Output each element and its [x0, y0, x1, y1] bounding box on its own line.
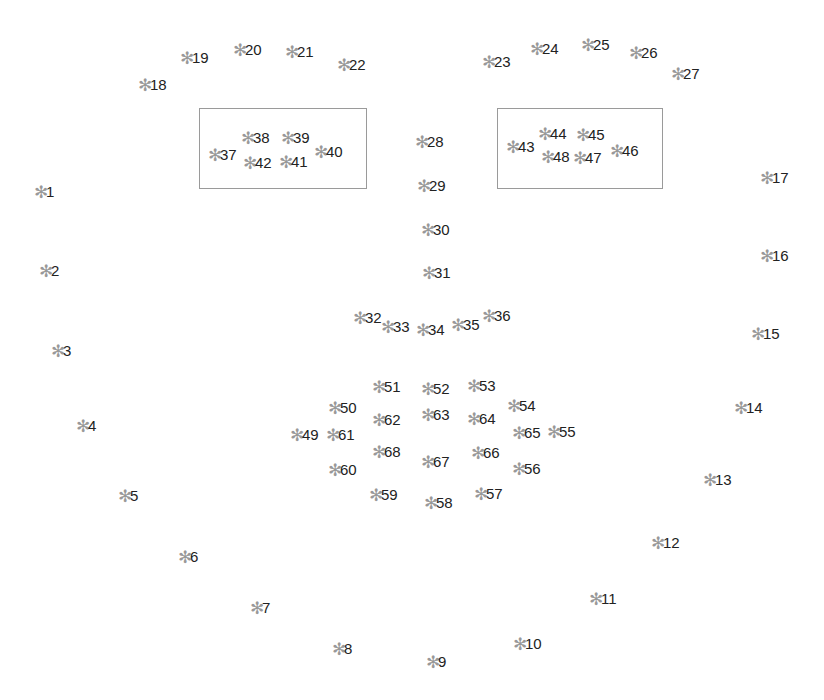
- landmark-label: 48: [553, 148, 570, 166]
- landmark-label: 17: [772, 169, 789, 187]
- landmark-label: 22: [349, 56, 366, 74]
- landmark-label: 30: [433, 221, 450, 239]
- landmark-label: 12: [663, 534, 680, 552]
- landmark-label: 38: [253, 129, 270, 147]
- landmark-label: 56: [524, 460, 541, 478]
- landmark-label: 54: [519, 397, 536, 415]
- landmark-label: 47: [585, 149, 602, 167]
- landmark-label: 63: [433, 406, 450, 424]
- landmark-label: 51: [384, 378, 401, 396]
- landmark-label: 68: [384, 443, 401, 461]
- landmark-label: 41: [291, 153, 308, 171]
- landmark-label: 65: [524, 424, 541, 442]
- landmark-label: 37: [220, 146, 237, 164]
- landmark-label: 52: [433, 380, 450, 398]
- landmark-label: 58: [436, 494, 453, 512]
- landmark-label: 23: [494, 53, 511, 71]
- landmark-label: 28: [427, 133, 444, 151]
- landmark-label: 34: [428, 321, 445, 339]
- landmark-label: 9: [438, 653, 446, 671]
- landmark-label: 4: [88, 417, 96, 435]
- landmark-label: 20: [245, 41, 262, 59]
- landmark-label: 49: [302, 426, 319, 444]
- landmark-label: 55: [559, 423, 576, 441]
- landmark-label: 2: [51, 262, 59, 280]
- landmark-label: 36: [494, 307, 511, 325]
- landmark-label: 53: [479, 377, 496, 395]
- landmark-label: 62: [384, 411, 401, 429]
- landmark-label: 21: [297, 43, 314, 61]
- landmark-label: 31: [434, 264, 451, 282]
- landmark-label: 3: [63, 342, 71, 360]
- landmark-label: 43: [518, 138, 535, 156]
- landmark-label: 40: [326, 143, 343, 161]
- landmark-label: 64: [479, 410, 496, 428]
- landmark-label: 18: [150, 76, 167, 94]
- landmark-label: 50: [340, 399, 357, 417]
- landmark-label: 33: [393, 318, 410, 336]
- facial-landmark-diagram: ✻1✻2✻3✻4✻5✻6✻7✻8✻9✻10✻11✻12✻13✻14✻15✻16✻…: [0, 0, 824, 700]
- landmark-label: 6: [190, 548, 198, 566]
- landmark-label: 60: [340, 461, 357, 479]
- landmark-label: 46: [622, 142, 639, 160]
- landmark-label: 66: [483, 444, 500, 462]
- landmark-label: 13: [715, 471, 732, 489]
- landmark-label: 10: [525, 635, 542, 653]
- landmark-label: 7: [262, 599, 270, 617]
- landmark-label: 26: [641, 44, 658, 62]
- landmark-label: 39: [293, 129, 310, 147]
- landmark-label: 59: [381, 486, 398, 504]
- landmark-label: 67: [433, 453, 450, 471]
- landmark-label: 8: [344, 640, 352, 658]
- landmark-label: 19: [192, 49, 209, 67]
- landmark-label: 25: [593, 36, 610, 54]
- landmark-label: 57: [486, 485, 503, 503]
- landmark-label: 29: [429, 177, 446, 195]
- landmark-label: 27: [683, 65, 700, 83]
- landmark-label: 1: [46, 183, 54, 201]
- landmark-label: 15: [763, 325, 780, 343]
- landmark-label: 5: [130, 487, 138, 505]
- landmark-label: 11: [601, 590, 617, 608]
- landmark-label: 35: [463, 316, 480, 334]
- landmark-label: 42: [255, 154, 272, 172]
- landmark-label: 24: [542, 40, 559, 58]
- landmark-label: 45: [588, 126, 605, 144]
- landmark-label: 16: [772, 247, 789, 265]
- landmark-label: 44: [550, 125, 567, 143]
- landmark-label: 61: [338, 426, 355, 444]
- landmark-label: 14: [746, 399, 763, 417]
